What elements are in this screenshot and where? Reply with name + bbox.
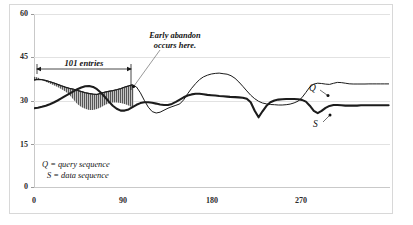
early-abandon-leader: [132, 50, 160, 88]
early-abandon-line1: Early abandon: [149, 31, 200, 40]
legend: Q = query sequence S = data sequence: [42, 159, 110, 181]
early-abandon-line2: occurs here.: [154, 41, 196, 50]
q-marker-leader: [320, 90, 330, 97]
legend-item-query: Q = query sequence: [42, 159, 110, 170]
q-marker-label: Q: [309, 83, 316, 93]
s-marker-leader: [323, 114, 332, 123]
early-abandon-annotation: Early abandon occurs here.: [127, 31, 223, 51]
legend-item-data: S = data sequence: [42, 170, 110, 181]
s-marker-label: S: [313, 119, 318, 129]
chart-figure: 60 45 30 15 0 0 90 180 270: [0, 0, 413, 225]
entries-span-label: 101 entries: [46, 58, 122, 68]
